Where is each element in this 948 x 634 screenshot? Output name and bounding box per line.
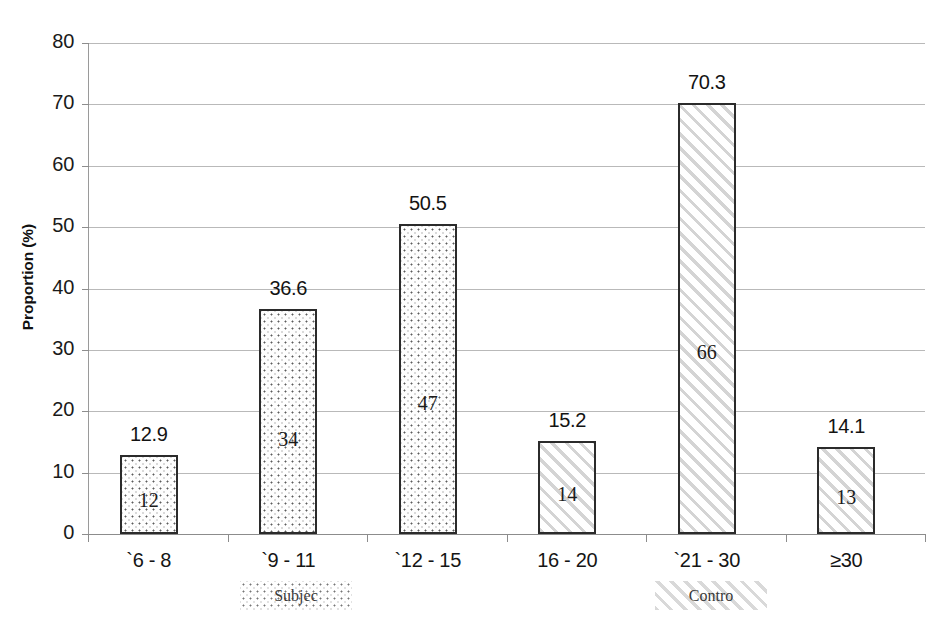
gridline-70 <box>88 104 925 105</box>
x-tick-mark-1 <box>228 534 229 542</box>
y-tick-label-60: 60 <box>22 153 74 176</box>
x-tick-label-2: `9 - 11 <box>218 549 358 572</box>
gridline-80 <box>88 43 925 44</box>
y-tick-mark-20 <box>82 411 89 412</box>
y-tick-label-0: 0 <box>22 521 74 544</box>
bar-count-label-2: 34 <box>238 428 338 451</box>
y-tick-mark-80 <box>82 43 89 44</box>
bar-3 <box>399 224 457 534</box>
plot-area <box>88 43 925 534</box>
y-tick-mark-30 <box>82 350 89 351</box>
bar-value-label-3: 50.5 <box>378 192 478 215</box>
x-tick-label-1: `6 - 8 <box>79 549 219 572</box>
x-tick-label-5: `21 - 30 <box>637 549 777 572</box>
bar-count-label-6: 13 <box>796 486 896 509</box>
gridline-50 <box>88 227 925 228</box>
x-tick-mark-3 <box>507 534 508 542</box>
y-tick-label-30: 30 <box>22 337 74 360</box>
x-tick-mark-5 <box>786 534 787 542</box>
y-tick-mark-50 <box>82 227 89 228</box>
x-tick-mark-4 <box>646 534 647 542</box>
y-tick-mark-40 <box>82 289 89 290</box>
bar-value-label-1: 12.9 <box>99 423 199 446</box>
legend-label-control: Contro <box>655 581 767 610</box>
y-tick-label-40: 40 <box>22 276 74 299</box>
y-tick-label-10: 10 <box>22 460 74 483</box>
gridline-40 <box>88 289 925 290</box>
y-tick-mark-60 <box>82 166 89 167</box>
bar-value-label-4: 15.2 <box>517 409 617 432</box>
bar-count-label-1: 12 <box>99 489 199 512</box>
gridline-30 <box>88 350 925 351</box>
x-tick-label-4: 16 - 20 <box>497 549 637 572</box>
y-tick-label-50: 50 <box>22 214 74 237</box>
bar-count-label-5: 66 <box>657 341 757 364</box>
gridline-20 <box>88 411 925 412</box>
y-tick-label-70: 70 <box>22 91 74 114</box>
legend-entry-subject: Subjec <box>240 581 352 610</box>
gridline-60 <box>88 166 925 167</box>
x-tick-label-6: ≥30 <box>776 549 916 572</box>
bar-value-label-6: 14.1 <box>796 415 896 438</box>
y-tick-label-80: 80 <box>22 30 74 53</box>
y-tick-label-20: 20 <box>22 398 74 421</box>
legend-entry-control: Contro <box>655 581 767 610</box>
x-tick-mark-0 <box>88 534 89 542</box>
bar-chart: Proportion (%) 01020304050607080 12.9123… <box>0 0 948 634</box>
bar-count-label-4: 14 <box>517 483 617 506</box>
gridline-10 <box>88 473 925 474</box>
bar-count-label-3: 47 <box>378 392 478 415</box>
x-tick-mark-6 <box>925 534 926 542</box>
bar-2 <box>259 309 317 534</box>
bar-value-label-5: 70.3 <box>657 71 757 94</box>
legend-label-subject: Subjec <box>240 581 352 610</box>
x-tick-label-3: `12 - 15 <box>358 549 498 572</box>
y-tick-mark-70 <box>82 104 89 105</box>
y-tick-mark-10 <box>82 473 89 474</box>
bar-value-label-2: 36.6 <box>238 277 338 300</box>
x-tick-mark-2 <box>367 534 368 542</box>
bar-5 <box>678 103 736 534</box>
